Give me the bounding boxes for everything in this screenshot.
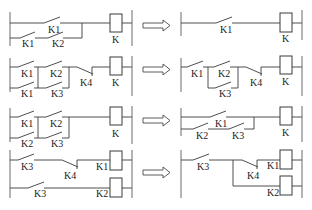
label-k1-bottom: K1 [21,88,33,99]
label-coil-k: K [282,33,290,44]
ladder-diagram-canvas: K1 K1 K2 K K1 K K1 [0,0,312,210]
right-arrow-icon [143,167,170,178]
coil-k [280,56,292,74]
label-k3: K3 [197,161,209,172]
label-k1: K1 [215,118,227,129]
label-k3-top: K3 [21,161,33,172]
row-2-arrow [143,64,170,75]
contact-k3-top [18,154,34,160]
label-k2: K2 [218,68,230,79]
contact-k1-top [18,61,34,67]
row-4-arrow [143,167,170,178]
label-k3: K3 [219,88,231,99]
label-k4: K4 [80,77,92,88]
row-1-after-circuit: K1 K [181,10,302,44]
label-k3-bottom: K3 [34,188,46,199]
contact-k4-nc [62,160,78,167]
contact-k4-nc [77,67,93,74]
label-k2: K2 [196,130,208,141]
label-k2-top: K2 [50,118,62,129]
contact-k2 [193,123,208,129]
row-2-before-circuit: K1 K2 K1 K3 K4 K [10,56,132,99]
contact-k2-top [46,111,62,117]
contact-k1-top [18,111,34,117]
contact-k2 [214,61,230,67]
row-3-before-circuit: K1 K2 K2 K3 K [10,106,132,149]
row-4-before-circuit: K3 K4 K1 K3 K2 [10,150,132,199]
coil-k1 [110,151,122,170]
label-k1: K1 [220,24,232,35]
label-k1-top: K1 [21,68,33,79]
label-k2-top: K2 [50,68,62,79]
label-k2-bottom: K2 [21,138,33,149]
label-coil-k: K [112,128,120,139]
label-k4: K4 [250,77,262,88]
contact-k3 [229,123,244,129]
coil-k2 [110,178,122,197]
label-k4: K4 [64,170,76,181]
label-k3: K3 [232,130,244,141]
row-2-after-circuit: K1 K2 K3 K4 K [181,56,302,99]
label-k3-bottom: K3 [51,138,63,149]
label-coil-k2: K2 [267,187,279,198]
right-arrow-icon [143,115,170,126]
label-coil-k: K [282,127,290,138]
label-coil-k1: K1 [267,160,279,171]
coil-k1 [280,150,292,169]
label-k4: K4 [247,170,259,181]
label-k1: K1 [191,68,203,79]
contact-k4-nc [246,67,262,74]
right-arrow-icon [143,20,170,31]
row-1-arrow [143,20,170,31]
contact-k3 [193,154,209,160]
label-coil-k: K [112,77,120,88]
right-arrow-icon [143,64,170,75]
label-coil-k2: K2 [96,188,108,199]
coil-k [110,14,122,32]
row-3-after-circuit: K1 K2 K3 K [181,106,302,142]
coil-k [110,57,122,75]
label-k1-bottom: K1 [22,38,34,49]
label-k1-top: K1 [21,118,33,129]
label-coil-k: K [282,76,290,87]
label-coil-k1: K1 [96,161,108,172]
label-k1-top: K1 [48,24,60,35]
contact-k1-top [44,17,60,23]
coil-k2 [280,176,292,195]
coil-k [280,13,292,32]
contact-k1 [187,61,203,67]
label-k2-bottom: K2 [52,38,64,49]
contact-k2-top [46,61,62,67]
label-coil-k: K [112,34,120,45]
contact-k1 [216,17,232,23]
label-k3-bottom: K3 [51,88,63,99]
coil-k [110,107,122,125]
row-1-before-circuit: K1 K1 K2 K [10,10,132,49]
contact-k4-nc [242,160,258,167]
row-3-arrow [143,115,170,126]
contact-k1 [210,111,226,117]
row-4-after-circuit: K3 K4 K1 K2 [181,150,302,198]
coil-k [280,107,292,125]
